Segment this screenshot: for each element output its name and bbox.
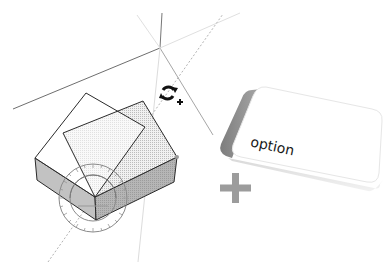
plus-icon: [220, 173, 251, 203]
rotation-endpoint: [175, 155, 179, 159]
plus-modifier-icon: [177, 99, 183, 105]
axis-red-back-line: [160, 13, 240, 48]
axis-green-back-line: [137, 15, 160, 48]
rotate-copy-cursor-icon: [159, 87, 183, 105]
box-model: [35, 93, 179, 220]
axis-blue-line: [160, 13, 162, 48]
rotate-option-illustration: option: [0, 0, 392, 268]
option-key: option: [220, 87, 383, 191]
